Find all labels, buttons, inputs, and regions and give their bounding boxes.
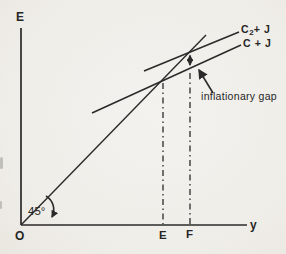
label-c-plus-j: C + J	[243, 38, 271, 49]
inflationary-gap-diagram: E O 45° E F y C2+ J C + J inflationary g…	[0, 0, 286, 254]
label-c2-rest: + J	[254, 23, 271, 35]
label-c2-plus-j: C2+ J	[241, 24, 270, 37]
x-axis-label: y	[250, 219, 257, 231]
x-tick-F-label: F	[186, 229, 193, 241]
line-c2-plus-j	[144, 32, 239, 71]
angle-45-label: 45°	[28, 206, 45, 218]
origin-label: O	[15, 230, 24, 242]
inflationary-gap-label: inflationary gap	[201, 91, 277, 102]
scan-artifact	[0, 157, 3, 169]
y-axis-label: E	[16, 11, 24, 23]
line-c-plus-j	[92, 45, 241, 113]
angle-arc-arrow	[46, 196, 54, 217]
line-45-degree	[21, 35, 206, 225]
x-tick-E-label: E	[159, 230, 167, 242]
scan-artifact	[0, 201, 2, 209]
label-c2-base: C	[241, 23, 249, 35]
